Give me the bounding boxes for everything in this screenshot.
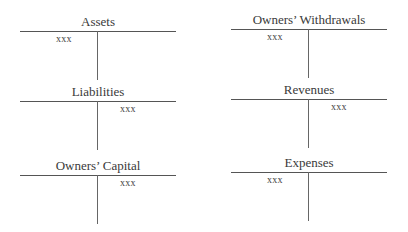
t-account-horizontal-line xyxy=(231,29,387,30)
t-account-horizontal-line xyxy=(20,175,176,176)
t-account-horizontal-line xyxy=(20,31,176,32)
account-title: Owners’ Withdrawals xyxy=(231,12,387,28)
debit-entry: xxx xyxy=(267,174,283,186)
t-account-liabilities: Liabilities xxx xyxy=(20,84,176,164)
account-title: Revenues xyxy=(231,82,387,98)
t-account-assets: Assets xxx xyxy=(20,14,176,94)
account-title: Assets xyxy=(20,14,176,30)
t-account-vertical-line xyxy=(308,99,309,148)
t-account-owners-withdrawals: Owners’ Withdrawals xxx xyxy=(231,12,387,92)
credit-entry: xxx xyxy=(331,101,347,113)
account-title: Expenses xyxy=(231,155,387,171)
t-account-horizontal-line xyxy=(20,101,176,102)
credit-entry: xxx xyxy=(120,177,136,189)
t-account-vertical-line xyxy=(97,175,98,224)
t-account-vertical-line xyxy=(97,101,98,150)
t-account-vertical-line xyxy=(308,172,309,221)
t-account-vertical-line xyxy=(97,31,98,80)
t-account-owners-capital: Owners’ Capital xxx xyxy=(20,158,176,232)
debit-entry: xxx xyxy=(267,31,283,43)
credit-entry: xxx xyxy=(120,103,136,115)
t-account-horizontal-line xyxy=(231,99,387,100)
account-title: Liabilities xyxy=(20,84,176,100)
debit-entry: xxx xyxy=(56,33,72,45)
t-account-expenses: Expenses xxx xyxy=(231,155,387,232)
account-title: Owners’ Capital xyxy=(20,158,176,174)
t-account-revenues: Revenues xxx xyxy=(231,82,387,162)
t-account-vertical-line xyxy=(308,29,309,78)
t-account-horizontal-line xyxy=(231,172,387,173)
